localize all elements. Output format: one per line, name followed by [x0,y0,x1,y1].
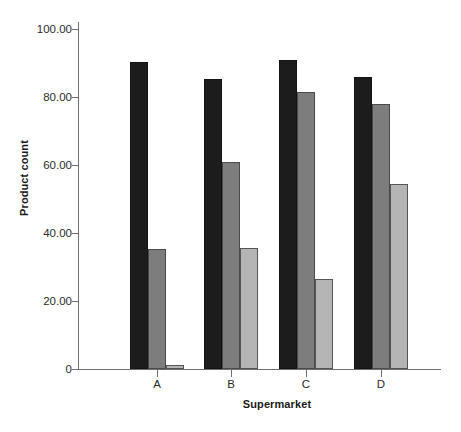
y-tick-mark [72,301,79,302]
x-tick-mark [306,370,307,377]
x-tick-label: B [201,378,261,390]
y-tick-label: 0 [2,363,72,375]
bar-C-series-3 [315,279,333,369]
bar-B-series-3 [240,248,258,369]
y-tick-label: 20.00 [2,295,72,307]
bar-chart: Product count 020.0040.0060.0080.00100.0… [0,0,461,432]
x-tick-mark [157,370,158,377]
bar-A-series-3 [166,365,184,369]
bar-C-series-2 [297,92,315,369]
bar-A-series-1 [130,62,148,369]
y-tick-label: 60.00 [2,159,72,171]
x-axis-title: Supermarket [112,398,442,410]
bar-C-series-1 [279,60,297,369]
y-axis-line [78,22,79,370]
y-tick-mark [72,369,79,370]
x-tick-label: D [351,378,411,390]
x-axis-line [78,369,441,370]
y-tick-mark [72,29,79,30]
y-tick-label: 100.00 [2,23,72,35]
bar-D-series-2 [372,104,390,369]
y-tick-mark [72,165,79,166]
x-tick-mark [231,370,232,377]
bar-D-series-3 [390,184,408,369]
x-tick-label: A [127,378,187,390]
y-tick-mark [72,97,79,98]
bar-B-series-1 [204,79,222,369]
bar-D-series-1 [354,77,372,369]
y-tick-mark [72,233,79,234]
y-tick-label: 40.00 [2,227,72,239]
x-tick-mark [381,370,382,377]
y-tick-label: 80.00 [2,91,72,103]
bar-A-series-2 [148,249,166,369]
bar-B-series-2 [222,162,240,369]
x-tick-label: C [276,378,336,390]
